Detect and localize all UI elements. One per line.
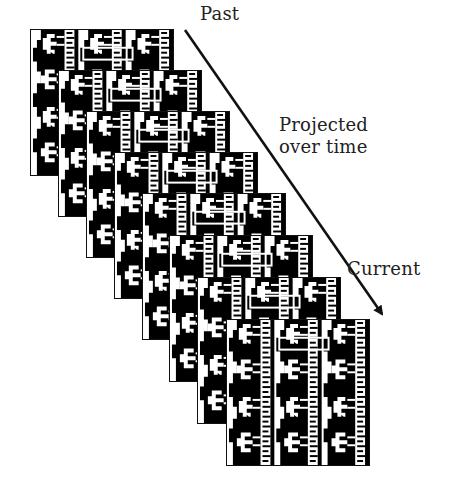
label-over-time: over time [279, 136, 368, 157]
label-projected: Projected [279, 114, 368, 135]
cellular-pattern-image [227, 320, 369, 465]
diagram-stage: Past Projected over time Current [0, 0, 456, 482]
time-frame-8 [226, 319, 370, 466]
label-current: Current [347, 258, 420, 279]
label-past: Past [200, 3, 239, 24]
